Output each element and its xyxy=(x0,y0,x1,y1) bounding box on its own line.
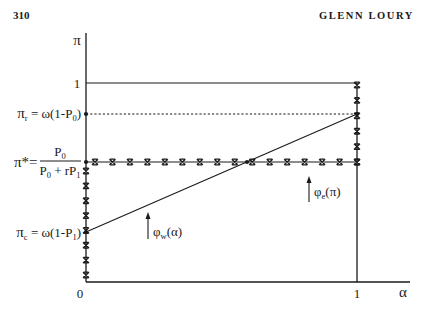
diagram: π 1 0 1 α πr = ω(1-P0) π*= P0 P0 + rP1 π… xyxy=(14,32,410,301)
pi-c-expression: = ω(1-P xyxy=(28,225,73,240)
pi-r-expression: = ω(1-P xyxy=(28,106,73,121)
phi-w-argument: (α) xyxy=(167,224,182,239)
y-axis-label: π xyxy=(73,32,81,48)
intersection-point xyxy=(245,160,249,164)
numerator-subscript: 0 xyxy=(61,151,65,161)
pi-r-point xyxy=(84,112,88,116)
denominator-mid: + rP xyxy=(51,163,76,178)
numerator-base: P xyxy=(54,144,61,159)
x-axis-label: α xyxy=(399,284,407,300)
pi-c-label: πc = ω(1-P1) xyxy=(16,224,81,242)
running-head: GLENN LOURY xyxy=(319,10,414,21)
y-tick-one: 1 xyxy=(74,76,81,91)
phi-w-line xyxy=(86,114,357,232)
pi-star-point xyxy=(84,160,88,164)
pi-r-close: ) xyxy=(77,106,81,121)
phi-symbol: φ xyxy=(314,184,322,199)
denominator-subscript-2: 1 xyxy=(76,170,80,180)
x-tick-zero: 0 xyxy=(77,286,84,301)
phi-symbol: φ xyxy=(153,224,161,239)
page-number: 310 xyxy=(13,9,30,21)
up-arrow-icon xyxy=(146,212,151,219)
pi-r-label: πr = ω(1-P0) xyxy=(17,105,81,123)
pi-c-close: ) xyxy=(77,225,81,240)
phi-e-annotation: φe(π) xyxy=(307,176,341,202)
x-tick-one: 1 xyxy=(354,286,361,301)
pi-star-symbol: π*= xyxy=(14,154,38,170)
page-figure: 310 GLENN LOURY π 1 0 1 α πr = ω(1-P0) xyxy=(0,0,428,312)
phi-w-label: φw(α) xyxy=(153,224,182,241)
up-arrow-icon xyxy=(307,176,312,183)
denominator-base: P xyxy=(39,163,46,178)
equilibrium-markers xyxy=(83,82,360,278)
phi-e-argument: (π) xyxy=(325,184,340,199)
pi-star-numerator: P0 xyxy=(54,144,65,161)
pi-star-label: π*= P0 P0 + rP1 xyxy=(14,144,81,180)
phi-e-label: φe(π) xyxy=(314,184,341,201)
pi-star-denominator: P0 + rP1 xyxy=(39,163,80,180)
phi-w-annotation: φw(α) xyxy=(146,212,183,241)
